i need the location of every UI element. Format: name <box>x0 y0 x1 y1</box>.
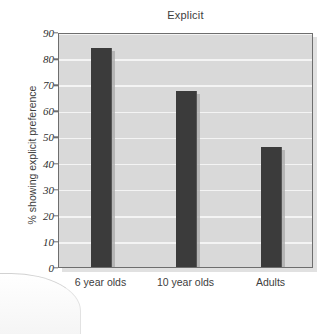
gridline <box>59 33 312 35</box>
y-axis-tick-mark <box>54 163 58 164</box>
y-axis-tick-label: 60 <box>20 105 54 117</box>
y-axis-tick-mark <box>54 32 58 33</box>
y-axis-tick-mark <box>54 85 58 86</box>
y-axis-tick-label: 50 <box>20 131 54 143</box>
y-axis-tick-label: 30 <box>20 184 54 196</box>
y-axis-tick-label: 0 <box>20 262 54 274</box>
bar <box>261 147 282 267</box>
x-axis-tick-label: 10 year olds <box>157 276 214 288</box>
y-axis-tick-mark <box>54 58 58 59</box>
y-axis-tick-mark <box>54 267 58 268</box>
x-axis-tick-label: 6 year olds <box>75 276 126 288</box>
y-axis-tick-labels: 0102030405060708090 <box>18 33 54 268</box>
y-axis-tick-mark <box>54 241 58 242</box>
y-axis-tick-label: 80 <box>20 53 54 65</box>
y-axis-tick-mark <box>54 111 58 112</box>
y-axis-tick-mark <box>54 137 58 138</box>
y-axis-tick-label: 70 <box>20 79 54 91</box>
y-axis-tick-label: 20 <box>20 210 54 222</box>
x-axis-tick-label: Adults <box>256 276 285 288</box>
y-axis-tick-mark <box>54 189 58 190</box>
chart-title: Explicit <box>58 9 313 21</box>
bar <box>91 48 112 267</box>
y-axis-tick-label: 90 <box>20 27 54 39</box>
y-axis-tick-marks <box>58 33 62 268</box>
y-axis-tick-label: 10 <box>20 236 54 248</box>
bar <box>176 91 197 267</box>
x-axis-tick-labels: 6 year olds10 year oldsAdults <box>58 276 313 296</box>
plot-area <box>58 33 313 268</box>
y-axis-tick-label: 40 <box>20 158 54 170</box>
y-axis-tick-mark <box>54 215 58 216</box>
